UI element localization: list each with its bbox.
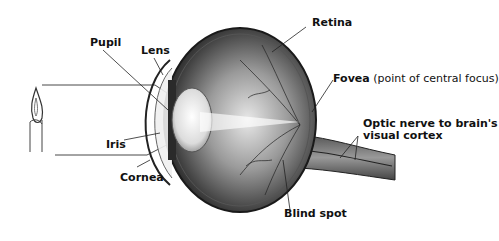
- label-optic-nerve-line2: visual cortex: [363, 130, 443, 142]
- candle-icon: [30, 88, 43, 152]
- label-iris: Iris: [106, 139, 126, 151]
- label-pupil: Pupil: [90, 37, 121, 49]
- label-lens: Lens: [141, 45, 170, 57]
- label-fovea: Fovea (point of central focus): [333, 73, 499, 85]
- label-cornea: Cornea: [120, 172, 164, 184]
- label-retina: Retina: [312, 17, 352, 29]
- label-blind-spot: Blind spot: [284, 208, 347, 220]
